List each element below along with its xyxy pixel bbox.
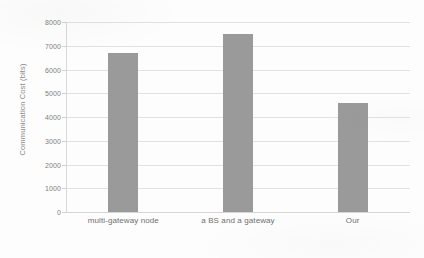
y-axis-title-text: Communication Cost (bits) bbox=[18, 63, 27, 155]
y-tick-label: 2000 bbox=[45, 161, 61, 168]
y-axis-tick-labels: 010002000300040005000600070008000 bbox=[30, 22, 64, 212]
bar bbox=[338, 103, 368, 212]
y-tick-label: 7000 bbox=[45, 42, 61, 49]
gridline bbox=[66, 212, 410, 213]
y-tick-label: 4000 bbox=[45, 114, 61, 121]
y-tick-label: 0 bbox=[57, 209, 61, 216]
y-tick-mark bbox=[62, 212, 66, 213]
x-axis-tick-labels: multi-gateway nodea BS and a gatewayOur bbox=[66, 216, 410, 236]
bar bbox=[108, 53, 138, 212]
x-tick-label: a BS and a gateway bbox=[201, 216, 274, 225]
bars-layer bbox=[66, 22, 410, 212]
y-tick-label: 1000 bbox=[45, 185, 61, 192]
x-tick-label: Our bbox=[346, 216, 360, 225]
y-tick-label: 3000 bbox=[45, 137, 61, 144]
y-tick-label: 5000 bbox=[45, 90, 61, 97]
y-tick-label: 6000 bbox=[45, 66, 61, 73]
bar-chart-figure: Communication Cost (bits) 01000200030004… bbox=[0, 0, 424, 258]
x-tick-label: multi-gateway node bbox=[88, 216, 159, 225]
bar bbox=[223, 34, 253, 212]
y-tick-label: 8000 bbox=[45, 19, 61, 26]
